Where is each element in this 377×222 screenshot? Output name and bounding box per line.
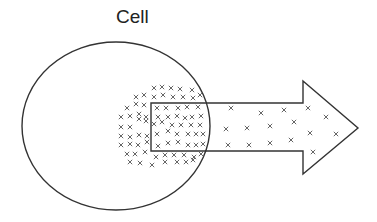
molecule-x-icon <box>259 111 263 115</box>
molecule-x-icon <box>164 106 168 110</box>
molecule-x-icon <box>289 138 293 142</box>
molecule-x-icon <box>166 115 170 119</box>
molecule-x-icon <box>176 106 180 110</box>
molecule-x-icon <box>144 115 148 119</box>
molecule-x-icon <box>179 123 183 127</box>
molecule-x-icon <box>201 142 205 146</box>
molecule-markers <box>119 85 338 167</box>
molecule-x-icon <box>176 140 180 144</box>
molecule-x-icon <box>137 112 141 116</box>
molecule-x-icon <box>194 143 198 147</box>
molecule-x-icon <box>306 106 310 110</box>
molecule-x-icon <box>150 163 154 167</box>
molecule-x-icon <box>154 155 158 159</box>
molecule-x-icon <box>160 85 164 89</box>
molecule-x-icon <box>182 153 186 157</box>
molecule-x-icon <box>119 134 123 138</box>
molecule-x-icon <box>184 160 188 164</box>
molecule-x-icon <box>155 132 159 136</box>
molecule-x-icon <box>185 105 189 109</box>
molecule-x-icon <box>125 152 129 156</box>
molecule-x-icon <box>161 93 165 97</box>
molecule-x-icon <box>194 132 198 136</box>
molecule-x-icon <box>128 125 132 129</box>
molecule-x-icon <box>191 96 195 100</box>
molecule-x-icon <box>175 132 179 136</box>
molecule-x-icon <box>152 122 156 126</box>
molecule-x-icon <box>119 125 123 129</box>
molecule-x-icon <box>196 105 200 109</box>
molecule-x-icon <box>201 132 205 136</box>
molecule-x-icon <box>198 93 202 97</box>
molecule-x-icon <box>137 133 141 137</box>
molecule-x-icon <box>186 132 190 136</box>
molecule-x-icon <box>163 160 167 164</box>
molecule-x-icon <box>172 153 176 157</box>
molecule-x-icon <box>119 115 123 119</box>
molecule-x-icon <box>166 129 170 133</box>
molecule-x-icon <box>190 115 194 119</box>
molecule-x-icon <box>137 117 141 121</box>
molecule-x-icon <box>119 143 123 147</box>
molecule-x-icon <box>125 106 129 110</box>
molecule-x-icon <box>144 119 148 123</box>
molecule-x-icon <box>170 123 174 127</box>
molecule-x-icon <box>143 150 147 154</box>
molecule-x-icon <box>181 95 185 99</box>
molecule-x-icon <box>324 115 328 119</box>
molecule-x-icon <box>171 95 175 99</box>
molecule-x-icon <box>268 141 272 145</box>
molecule-x-icon <box>292 120 296 124</box>
molecule-x-icon <box>160 120 164 124</box>
molecule-x-icon <box>169 86 173 90</box>
molecule-x-icon <box>229 106 233 110</box>
molecule-x-icon <box>224 127 228 131</box>
molecule-x-icon <box>128 114 132 118</box>
molecule-x-icon <box>133 152 137 156</box>
diagram-canvas <box>0 0 377 222</box>
molecule-x-icon <box>247 143 251 147</box>
molecule-x-icon <box>226 143 230 147</box>
molecule-x-icon <box>166 141 170 145</box>
molecule-x-icon <box>311 150 315 154</box>
molecule-x-icon <box>145 134 149 138</box>
molecule-x-icon <box>186 143 190 147</box>
molecule-x-icon <box>245 126 249 130</box>
molecule-x-icon <box>198 123 202 127</box>
molecule-x-icon <box>136 143 140 147</box>
molecule-x-icon <box>128 135 132 139</box>
molecule-x-icon <box>134 102 138 106</box>
molecule-x-icon <box>178 87 182 91</box>
molecule-x-icon <box>156 115 160 119</box>
molecule-x-icon <box>334 132 338 136</box>
molecule-x-icon <box>152 95 156 99</box>
molecule-x-icon <box>142 93 146 97</box>
molecule-x-icon <box>268 124 272 128</box>
molecule-x-icon <box>282 108 286 112</box>
molecule-x-icon <box>128 160 132 164</box>
molecule-x-icon <box>199 114 203 118</box>
molecule-x-icon <box>199 152 203 156</box>
molecule-x-icon <box>128 142 132 146</box>
molecule-x-icon <box>142 103 146 107</box>
molecule-x-icon <box>183 116 187 120</box>
molecule-x-icon <box>163 153 167 157</box>
molecule-x-icon <box>152 86 156 90</box>
molecule-x-icon <box>156 144 160 148</box>
molecule-x-icon <box>175 114 179 118</box>
molecule-x-icon <box>138 161 142 165</box>
molecule-x-icon <box>175 160 179 164</box>
molecule-x-icon <box>190 88 194 92</box>
diffusion-arrow <box>151 81 358 174</box>
molecule-x-icon <box>134 95 138 99</box>
molecule-x-icon <box>189 123 193 127</box>
molecule-x-icon <box>308 131 312 135</box>
molecule-x-icon <box>155 106 159 110</box>
molecule-x-icon <box>145 140 149 144</box>
